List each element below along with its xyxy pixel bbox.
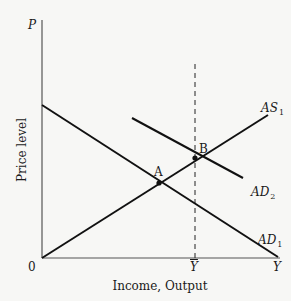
diagram-canvas: [0, 0, 291, 301]
point-b-label: B: [199, 143, 208, 155]
origin-label: 0: [28, 261, 36, 273]
x-axis-symbol: Y: [273, 261, 281, 273]
ad1-label-sub: 1: [277, 240, 282, 249]
ad1-label: AD1: [258, 234, 282, 249]
as1-label: AS1: [261, 102, 284, 117]
y-axis-symbol: P: [28, 19, 36, 31]
point-a-marker: [156, 180, 161, 185]
ad2-curve: [132, 118, 243, 178]
ad2-label-sub: 2: [270, 192, 275, 201]
x-axis-label: Income, Output: [112, 279, 207, 293]
as1-label-sub: 1: [279, 108, 284, 117]
y-axis-label: Price level: [15, 118, 29, 182]
as1-curve: [42, 115, 268, 258]
point-b-marker: [192, 155, 197, 160]
ad2-label-main: AD: [251, 185, 269, 199]
ad2-label: AD2: [251, 186, 275, 201]
point-a-label: A: [154, 166, 163, 178]
ad1-label-main: AD: [258, 233, 276, 247]
y-bar-label: Y: [190, 261, 198, 273]
ad-as-diagram: P Price level 0 Y Y Income, Output A B A…: [0, 0, 291, 301]
as1-label-main: AS: [261, 101, 278, 115]
